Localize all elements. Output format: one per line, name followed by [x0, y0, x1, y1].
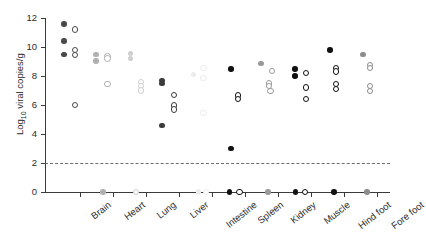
data-point — [267, 88, 274, 95]
x-axis-tick — [311, 193, 312, 197]
data-point — [360, 52, 366, 58]
x-axis-tick — [344, 193, 345, 197]
data-point — [364, 189, 370, 195]
data-point — [303, 84, 310, 91]
data-point — [258, 61, 264, 67]
x-axis-tick-label: Liver — [187, 199, 210, 220]
x-axis-tick-label: Brain — [88, 199, 112, 221]
data-point — [367, 65, 374, 72]
x-axis-tick-label: Heart — [122, 199, 147, 222]
data-point — [93, 52, 99, 58]
y-axis-tick — [41, 47, 45, 48]
x-axis-tick — [113, 193, 114, 197]
y-axis-spine — [45, 18, 46, 192]
data-point — [159, 81, 165, 87]
y-axis-tick-label: 6 — [15, 100, 37, 110]
x-axis-tick-label: Kidney — [288, 199, 318, 226]
data-point — [159, 123, 165, 129]
x-axis-tick — [212, 193, 213, 197]
y-axis-tick — [41, 134, 45, 135]
data-point — [93, 58, 99, 64]
data-point — [171, 92, 178, 99]
y-axis-tick — [41, 76, 45, 77]
y-axis-tick-label: 10 — [15, 42, 37, 52]
data-point — [303, 70, 310, 77]
data-point — [269, 68, 276, 75]
x-axis-tick — [80, 193, 81, 197]
data-point — [200, 110, 207, 117]
x-axis-tick-label: Hind foot — [356, 199, 393, 231]
data-point — [227, 189, 233, 195]
data-point — [292, 66, 298, 72]
x-axis-tick-label: Lung — [154, 199, 177, 221]
x-axis-tick-label: Intestine — [223, 199, 258, 230]
data-point — [367, 88, 374, 95]
y-axis-tick-label: 4 — [15, 129, 37, 139]
y-axis-tick — [41, 192, 45, 193]
y-axis-tick-label: 8 — [15, 71, 37, 81]
x-axis-tick — [146, 193, 147, 197]
x-axis-tick — [377, 193, 378, 197]
x-axis-spine — [45, 192, 390, 193]
data-point — [61, 38, 67, 44]
y-axis-tick-label: 2 — [15, 158, 37, 168]
data-point — [302, 189, 309, 196]
data-point — [200, 65, 207, 72]
data-point — [61, 21, 67, 27]
data-point — [333, 86, 340, 93]
data-point — [72, 52, 79, 59]
data-point — [61, 52, 67, 58]
data-point — [265, 189, 271, 195]
x-axis-tick-label: Muscle — [321, 199, 351, 226]
data-point — [292, 73, 298, 79]
data-point — [128, 56, 134, 62]
data-point — [228, 66, 234, 72]
data-point — [303, 96, 310, 103]
x-axis-tick — [245, 193, 246, 197]
detection-threshold — [45, 163, 390, 164]
data-point — [235, 96, 242, 103]
data-point — [104, 81, 111, 88]
data-point — [104, 55, 111, 62]
data-point — [100, 189, 106, 195]
data-point — [133, 189, 140, 196]
data-point — [293, 189, 299, 195]
data-point — [327, 47, 333, 53]
x-axis-tick-label: Fore foot — [389, 199, 426, 231]
data-point — [203, 189, 210, 196]
data-point — [236, 189, 243, 196]
y-axis-tick-label: 12 — [15, 13, 37, 23]
data-point — [228, 146, 234, 152]
data-point — [196, 189, 202, 195]
data-point — [138, 87, 145, 94]
x-axis-tick — [179, 193, 180, 197]
x-axis-tick-label: Spleen — [255, 199, 285, 226]
y-axis-tick-label: 0 — [15, 187, 37, 197]
y-axis-tick — [41, 18, 45, 19]
data-point — [171, 106, 178, 113]
data-point — [333, 68, 340, 75]
data-point — [72, 102, 79, 109]
data-point — [200, 75, 207, 82]
data-point — [331, 189, 337, 195]
data-point — [72, 26, 79, 33]
x-axis-tick — [278, 193, 279, 197]
y-axis-tick — [41, 105, 45, 106]
data-point — [191, 72, 197, 78]
